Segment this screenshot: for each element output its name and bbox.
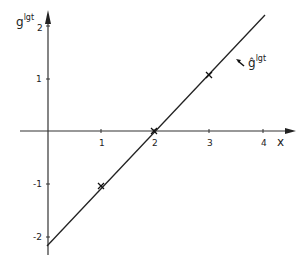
x-tick-4: 4 [261, 139, 267, 148]
y-tick-1: 1 [36, 75, 42, 84]
x-axis-label: x [277, 136, 284, 148]
line-label: ĝlgt [248, 57, 266, 69]
y-axis-arrow-icon [45, 10, 51, 24]
chart-canvas [0, 0, 307, 256]
y-tick-2: 2 [37, 24, 43, 33]
x-axis-arrow-icon [285, 128, 296, 134]
x-tick-3: 3 [207, 139, 213, 148]
x-tick-1: 1 [99, 139, 105, 148]
y-tick-minus-2: -2 [33, 233, 42, 242]
y-axis-label: glgt [16, 16, 34, 28]
x-tick-2: 2 [152, 139, 158, 148]
y-tick-minus-1: -1 [33, 180, 42, 189]
